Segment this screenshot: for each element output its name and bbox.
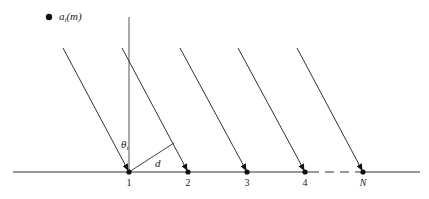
element-marker-2 xyxy=(185,169,190,174)
array-diagram: ai(m) θi d 1 2 3 4 N xyxy=(0,0,429,199)
element-labels: 1 2 3 4 N xyxy=(127,177,368,188)
element-label-2: 2 xyxy=(186,177,191,188)
legend: ai(m) xyxy=(46,10,82,24)
incident-arrow-3 xyxy=(180,48,246,170)
incident-arrows xyxy=(63,48,362,170)
legend-marker-icon xyxy=(46,14,52,20)
element-label-4: 4 xyxy=(303,177,308,188)
incident-arrow-2 xyxy=(122,48,187,170)
path-difference-line xyxy=(129,143,174,172)
incident-arrow-N xyxy=(297,48,362,170)
incident-arrow-4 xyxy=(238,48,304,170)
spacing-label: d xyxy=(155,157,161,169)
incident-arrow-1 xyxy=(63,48,128,170)
legend-label: ai(m) xyxy=(59,10,82,24)
element-marker-3 xyxy=(244,169,249,174)
element-label-1: 1 xyxy=(127,177,132,188)
angle-label: θi xyxy=(121,138,128,152)
element-label-3: 3 xyxy=(245,177,250,188)
element-marker-1 xyxy=(126,169,131,174)
element-marker-N xyxy=(360,169,365,174)
element-label-N: N xyxy=(359,177,368,188)
element-marker-4 xyxy=(302,169,307,174)
